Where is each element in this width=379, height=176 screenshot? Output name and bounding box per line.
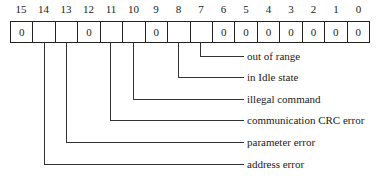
bit-number: 9: [145, 3, 167, 15]
bit-cell: 0: [213, 22, 235, 42]
field-label-address-error: address error: [247, 158, 304, 170]
bit-cell: 0: [303, 22, 325, 42]
bit-cell: 0: [11, 22, 33, 42]
bit-cell: [101, 22, 123, 42]
leader-line: [178, 43, 179, 78]
bit-number: 3: [280, 3, 302, 15]
bit-number: 5: [235, 3, 257, 15]
bit-cell: [33, 22, 55, 42]
leader-line: [200, 43, 201, 57]
bit-number: 8: [168, 3, 190, 15]
bit-number: 1: [325, 3, 347, 15]
bit-number: 14: [33, 3, 55, 15]
leader-line: [66, 142, 244, 143]
field-label-crc-error: communication CRC error: [247, 114, 364, 126]
bit-number: 4: [258, 3, 280, 15]
bit-number: 12: [78, 3, 100, 15]
bit-number: 10: [123, 3, 145, 15]
leader-line: [200, 56, 244, 57]
bit-cell: 0: [280, 22, 302, 42]
field-label-in-idle-state: in Idle state: [247, 71, 298, 83]
leader-line: [133, 99, 244, 100]
bit-number: 6: [213, 3, 235, 15]
field-label-parameter-error: parameter error: [247, 136, 315, 148]
leader-line: [44, 43, 45, 165]
field-label-illegal-command: illegal command: [247, 93, 321, 105]
bit-cell: [123, 22, 145, 42]
bit-cell: [191, 22, 213, 42]
bit-cell: 0: [146, 22, 168, 42]
register-box: 0 0 0 0 0 0 0 0 0 0: [10, 21, 370, 43]
leader-line: [44, 164, 244, 165]
leader-line: [110, 43, 111, 121]
leader-line: [178, 77, 244, 78]
bit-cell: [168, 22, 190, 42]
leader-line: [133, 43, 134, 100]
bit-number: 15: [10, 3, 32, 15]
bit-number: 0: [348, 3, 370, 15]
leader-line: [66, 43, 67, 143]
leader-line: [110, 120, 244, 121]
bit-number: 7: [190, 3, 212, 15]
bit-cell: 0: [235, 22, 257, 42]
bit-number: 11: [100, 3, 122, 15]
bit-number: 13: [55, 3, 77, 15]
bit-cell: 0: [325, 22, 347, 42]
bit-cell: 0: [78, 22, 100, 42]
bit-cell: [56, 22, 78, 42]
field-label-out-of-range: out of range: [247, 50, 300, 62]
bit-cell: 0: [258, 22, 280, 42]
bit-cell: 0: [348, 22, 369, 42]
bit-number: 2: [303, 3, 325, 15]
